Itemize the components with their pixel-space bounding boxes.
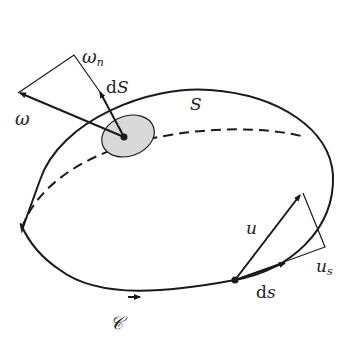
u-vector bbox=[235, 195, 300, 280]
dashed-rim bbox=[22, 129, 305, 228]
surface-patch bbox=[96, 108, 160, 164]
ds-s: s bbox=[267, 282, 276, 302]
omega-n-label: ωn bbox=[82, 48, 104, 68]
dS-d: d bbox=[106, 77, 117, 97]
stokes-theorem-diagram: ω ωn dS S u us ds 𝒞 bbox=[0, 0, 342, 349]
ds-label: ds bbox=[256, 284, 276, 301]
diagram-graphics bbox=[0, 0, 342, 349]
ds-d: d bbox=[256, 282, 267, 302]
u-s-main: u bbox=[316, 256, 327, 276]
omega-n-main: ω bbox=[82, 46, 97, 67]
u-label: u bbox=[246, 220, 257, 237]
surface-label: S bbox=[190, 96, 202, 113]
u-s-label: us bbox=[316, 258, 333, 277]
omega-vector bbox=[20, 93, 124, 137]
dS-S: S bbox=[117, 77, 129, 97]
omega-label: ω bbox=[15, 110, 30, 128]
omega-n-sub: n bbox=[97, 56, 104, 69]
curve-label: 𝒞 bbox=[110, 314, 123, 332]
u-s-sub: s bbox=[327, 265, 333, 278]
dS-label: dS bbox=[106, 79, 129, 96]
